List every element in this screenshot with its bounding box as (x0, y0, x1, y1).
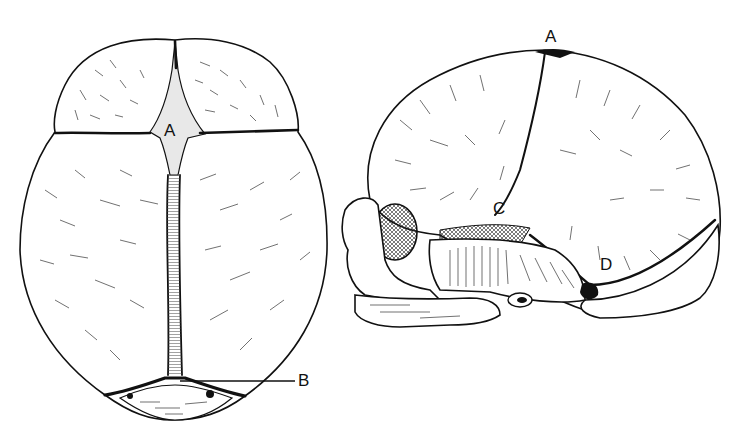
label-sphenoidal-fontanelle-lateral: C (493, 200, 505, 217)
superior-view-skull (20, 39, 327, 420)
skull-illustration: A B A C D (0, 0, 739, 439)
skull-drawings (0, 0, 739, 439)
label-mastoid-fontanelle-lateral: D (600, 256, 612, 273)
label-anterior-fontanelle-superior: A (164, 122, 175, 139)
label-posterior-fontanelle-superior: B (298, 372, 309, 389)
lateral-view-skull (342, 49, 720, 327)
label-anterior-fontanelle-lateral: A (545, 28, 556, 45)
